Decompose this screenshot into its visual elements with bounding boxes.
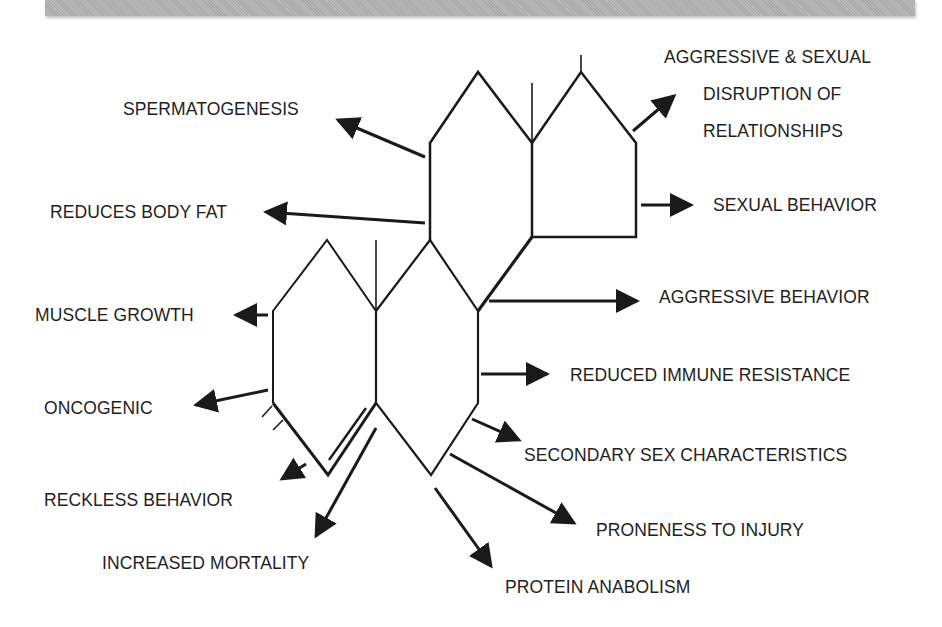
arrow-spermatogenesis bbox=[338, 120, 425, 157]
label-aggressive-sexual-line3: RELATIONSHIPS bbox=[703, 123, 843, 141]
label-aggressive-sexual-line2: DISRUPTION OF bbox=[703, 86, 841, 104]
label-oncogenic: ONCOGENIC bbox=[44, 400, 153, 418]
label-aggressive-sexual-line1: AGGRESSIVE & SEXUAL bbox=[664, 49, 871, 67]
effect-arrows bbox=[196, 96, 691, 566]
label-increased-mortality: INCREASED MORTALITY bbox=[102, 555, 309, 573]
arrow-reckless-behavior bbox=[282, 464, 306, 479]
label-secondary-sex-characteristics: SECONDARY SEX CHARACTERISTICS bbox=[524, 447, 847, 465]
label-reduces-body-fat: REDUCES BODY FAT bbox=[50, 204, 227, 222]
label-sexual-behavior: SEXUAL BEHAVIOR bbox=[713, 197, 877, 215]
arrow-reduces-body-fat bbox=[266, 212, 425, 223]
label-spermatogenesis: SPERMATOGENESIS bbox=[123, 101, 299, 119]
ring-b bbox=[376, 240, 478, 475]
label-reduced-immune-resistance: REDUCED IMMUNE RESISTANCE bbox=[570, 367, 850, 385]
arrow-increased-mortality bbox=[316, 428, 376, 536]
arrow-aggressive-sexual bbox=[633, 96, 674, 131]
ring-a bbox=[273, 240, 376, 403]
label-aggressive-behavior: AGGRESSIVE BEHAVIOR bbox=[659, 289, 870, 307]
ring-d bbox=[532, 72, 636, 237]
molecule-rings bbox=[262, 55, 636, 475]
ring-c bbox=[430, 72, 532, 240]
label-proneness-to-injury: PRONENESS TO INJURY bbox=[596, 522, 804, 540]
arrow-oncogenic bbox=[196, 390, 268, 405]
label-muscle-growth: MUSCLE GROWTH bbox=[35, 307, 194, 325]
label-protein-anabolism: PROTEIN ANABOLISM bbox=[505, 579, 691, 597]
arrow-secondary-sex bbox=[472, 419, 519, 440]
label-reckless-behavior: RECKLESS BEHAVIOR bbox=[44, 492, 233, 510]
arrow-protein-anabolism bbox=[435, 488, 491, 566]
